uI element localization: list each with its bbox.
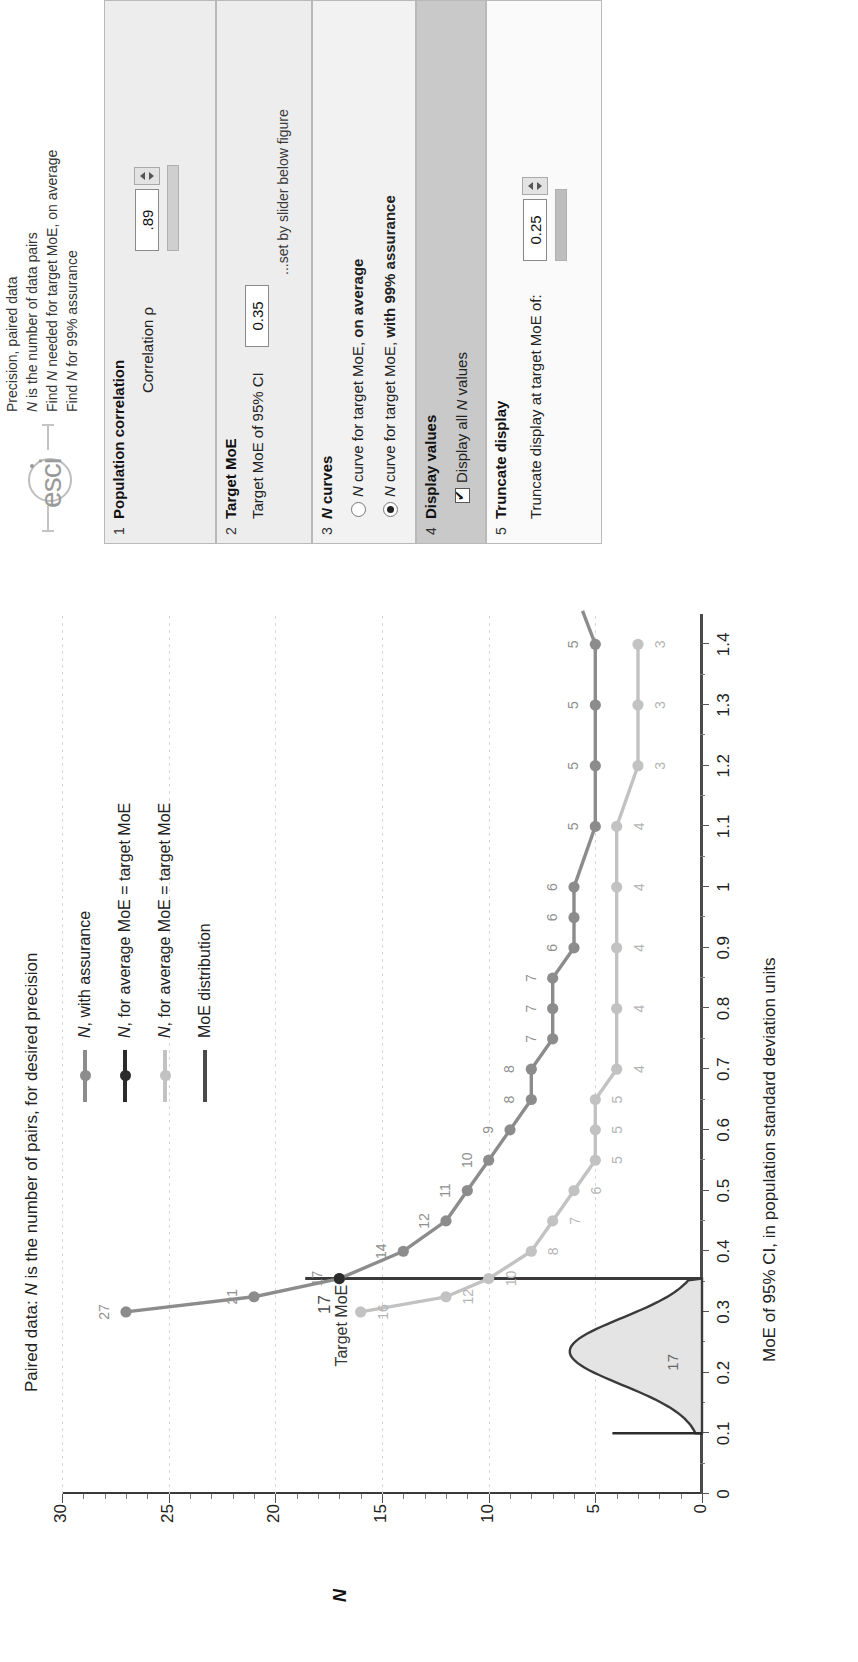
y-minor-tick <box>638 1494 639 1499</box>
spinner-down-icon[interactable] <box>149 172 154 180</box>
point-label: 5 <box>609 1096 625 1104</box>
x-tick-label: 1.2 <box>714 754 734 778</box>
legend-swatch <box>78 1050 92 1102</box>
display-all-n-label: Display all N values <box>453 352 470 483</box>
x-tick-label: 0 <box>714 1489 734 1498</box>
panel-2-title: Target MoE <box>222 438 239 519</box>
x-tick-label: 0.9 <box>714 936 734 960</box>
y-tick <box>702 1494 703 1503</box>
y-minor-tick <box>574 1494 575 1499</box>
y-tick <box>62 1494 63 1503</box>
point-label: 12 <box>416 1213 432 1229</box>
point-label: 27 <box>96 1304 112 1320</box>
panel-3-number: 3 <box>319 527 335 535</box>
panel-1-title: Population correlation <box>110 360 127 519</box>
y-tick-label: 20 <box>264 1504 284 1546</box>
display-all-n-checkbox[interactable] <box>455 488 470 503</box>
y-minor-tick <box>339 1494 340 1499</box>
legend-row: N, for average MoE = target MoE <box>118 803 132 1102</box>
point-label: 4 <box>631 1005 647 1013</box>
esci-precision-paired-data-page: Paired data: N is the number of pairs, f… <box>0 0 858 1662</box>
y-minor-tick <box>190 1494 191 1499</box>
radio-n-curve-assurance[interactable] <box>383 502 398 517</box>
point-label: 17 <box>309 1271 325 1287</box>
point-label: 7 <box>523 974 539 982</box>
y-tick <box>169 1494 170 1503</box>
point-label: 6 <box>588 1187 604 1195</box>
point-label: 5 <box>609 1126 625 1134</box>
correlation-spinner[interactable] <box>134 167 160 185</box>
y-tick-label: 0 <box>691 1504 711 1546</box>
panel-5-title: Truncate display <box>492 401 509 519</box>
panel-1-number: 1 <box>111 527 127 535</box>
y-minor-tick <box>681 1494 682 1499</box>
truncate-spinner[interactable] <box>522 177 548 195</box>
y-minor-tick <box>318 1494 319 1499</box>
target-moe-label: Target MoE of 95% CI <box>249 372 266 519</box>
truncate-spinner-up-icon[interactable] <box>528 182 533 190</box>
point-label: 7 <box>567 1217 583 1225</box>
y-minor-tick <box>659 1494 660 1499</box>
point-label: 10 <box>459 1152 475 1168</box>
panel-target-moe: 2 Target MoE Target MoE of 95% CI 0.35 .… <box>216 0 312 544</box>
y-minor-tick <box>83 1494 84 1499</box>
point-label: 4 <box>631 823 647 831</box>
legend-label: MoE distribution <box>196 923 214 1038</box>
correlation-label: Correlation ρ <box>139 307 156 393</box>
y-minor-tick <box>105 1494 106 1499</box>
correlation-slider[interactable] <box>167 165 179 251</box>
x-axis-label: MoE of 95% CI, in population standard de… <box>760 958 780 1362</box>
legend-swatch <box>118 1050 132 1102</box>
y-tick <box>489 1494 490 1503</box>
point-label: 16 <box>375 1304 391 1320</box>
panel-population-correlation: 1 Population correlation Correlation ρ .… <box>104 0 216 544</box>
legend-label: N, with assurance <box>76 911 94 1038</box>
y-tick-label: 5 <box>584 1504 604 1546</box>
legend-swatch <box>158 1050 172 1102</box>
x-tick-label: 0.5 <box>714 1179 734 1203</box>
x-tick-label: 0.2 <box>714 1361 734 1385</box>
point-label: 14 <box>373 1243 389 1259</box>
truncate-spinner-down-icon[interactable] <box>537 182 542 190</box>
point-label: 12 <box>460 1289 476 1305</box>
target-moe-hint: ...set by slider below figure <box>275 109 291 275</box>
point-label: 17 <box>315 1295 335 1314</box>
target-moe-annotation: Target MoE <box>333 1285 351 1367</box>
panel-3-title: N curves <box>318 456 335 519</box>
truncate-slider[interactable] <box>555 189 567 261</box>
chart-legend: N, with assuranceN, for average MoE = ta… <box>78 803 238 1102</box>
point-label: 7 <box>523 1005 539 1013</box>
point-label: 5 <box>565 762 581 770</box>
x-tick-label: 1.4 <box>714 633 734 657</box>
y-tick-label: 25 <box>158 1504 178 1546</box>
point-label: 10 <box>503 1271 519 1287</box>
point-label: 5 <box>565 640 581 648</box>
panel-display-values: 4 Display values Display all N values <box>416 0 486 544</box>
point-label: 9 <box>480 1126 496 1134</box>
chart-title: Paired data: N is the number of pairs, f… <box>22 953 42 1392</box>
truncate-label: Truncate display at target MoE of: <box>527 294 544 519</box>
x-tick-label: 0.6 <box>714 1118 734 1142</box>
point-label: 4 <box>631 883 647 891</box>
y-tick-label: 10 <box>478 1504 498 1546</box>
truncate-input[interactable]: 0.25 <box>523 199 547 261</box>
point-label: 5 <box>609 1156 625 1164</box>
x-tick-label: 0.7 <box>714 1057 734 1081</box>
point-label: 6 <box>544 944 560 952</box>
y-minor-tick <box>254 1494 255 1499</box>
correlation-input[interactable]: .89 <box>135 189 159 251</box>
legend-swatch <box>198 1050 212 1102</box>
y-minor-tick <box>147 1494 148 1499</box>
radio-label-average: N curve for target MoE, on average <box>349 259 366 497</box>
radio-n-curve-average[interactable] <box>351 502 366 517</box>
target-moe-input[interactable]: 0.35 <box>245 285 269 347</box>
y-minor-tick <box>510 1494 511 1499</box>
x-tick-label: 0.3 <box>714 1300 734 1324</box>
panel-truncate-display: 5 Truncate display Truncate display at t… <box>486 0 602 544</box>
point-label: 11 <box>437 1183 453 1198</box>
spinner-up-icon[interactable] <box>140 172 145 180</box>
point-label: 6 <box>544 883 560 891</box>
point-label: 4 <box>631 1065 647 1073</box>
x-tick-label: 1.3 <box>714 693 734 717</box>
panel-n-curves: 3 N curves N curve for target MoE, on av… <box>312 0 416 544</box>
